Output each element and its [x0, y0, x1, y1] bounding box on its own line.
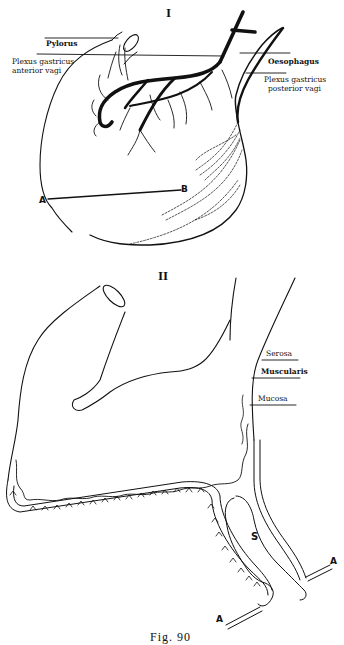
label-space-s: S	[251, 533, 258, 542]
label-mucosa: Mucosa	[258, 395, 288, 404]
panel-ii-numeral: II	[158, 268, 168, 284]
label-plexus-posterior-line2: posterior vagi	[268, 85, 321, 94]
panel-i-stomach	[40, 28, 282, 245]
label-plexus-anterior-line2: anterior vagi	[12, 67, 61, 76]
label-pylorus: Pylorus	[46, 40, 77, 49]
label-point-a-left: A	[216, 615, 223, 624]
panel-i-vagal-trunks	[99, 12, 255, 130]
label-point-b-panel-i: B	[181, 185, 188, 194]
panel-ii-wall-layers	[7, 395, 307, 606]
panel-i-numeral: I	[166, 5, 171, 21]
panel-ii-a-markers	[226, 565, 332, 629]
panel-ii-outline	[8, 278, 295, 480]
label-point-a-panel-i: A	[39, 196, 46, 205]
label-muscularis: Muscularis	[261, 368, 308, 377]
figure-caption: Fig. 90	[150, 630, 191, 645]
label-serosa: Serosa	[266, 350, 292, 359]
label-point-a-right: A	[330, 557, 337, 566]
label-oesophagus: Oesophagus	[268, 58, 319, 67]
